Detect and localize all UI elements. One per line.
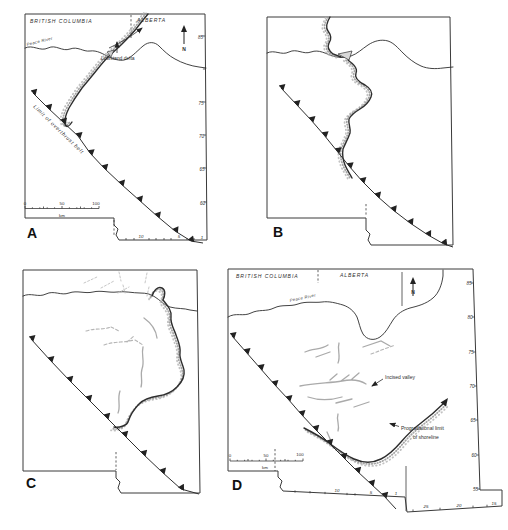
label-incised-valley: Incised valley <box>385 374 416 380</box>
incised-valley-leader-arrow <box>372 379 383 386</box>
delta-symbol-b <box>338 51 352 60</box>
scale-bar-a: 0 50 100 km <box>24 201 100 218</box>
four-panel-paleogeographic-maps: N BRITISH COLUMBIA ALBERTA Peace River L… <box>0 0 508 530</box>
township-tick-label: 80 <box>467 315 473 320</box>
panel-d: N BRITISH COLUMBIA ALBERTA Peace River I… <box>228 269 502 512</box>
scale-hundred: 100 <box>92 201 100 206</box>
range-tick-label: 25 <box>423 504 429 509</box>
north-label-d: N <box>411 289 415 295</box>
north-arrow-icon: N <box>181 25 187 52</box>
label-alberta-a: ALBERTA <box>136 17 166 23</box>
peace-river-line-d <box>228 270 443 339</box>
label-lowstand-delta: Lowstand delta <box>101 55 135 61</box>
township-tick-label: 85 <box>198 35 204 40</box>
panel-letter-c: C <box>26 475 36 491</box>
shoreline-stipple-b <box>325 17 370 178</box>
range-tick-label: 20 <box>456 503 462 508</box>
lowstand-shoreline-a <box>61 13 148 126</box>
range-tick-label: 1 <box>395 491 398 496</box>
label-british-columbia-a: BRITISH COLUMBIA <box>30 18 93 24</box>
prograd-limit-leader-arrow <box>390 424 399 427</box>
incised-valley-channels-d <box>300 341 395 441</box>
thrust-belt-line-b <box>281 88 453 247</box>
township-tick-label: 55 <box>473 487 479 492</box>
township-tick-label: 65 <box>470 418 476 423</box>
peace-river-line-c <box>23 291 197 311</box>
progradational-shoreline-d <box>304 398 448 466</box>
north-label-a: N <box>182 46 186 52</box>
thrust-belt-line-d <box>232 336 396 509</box>
township-tick-label: 65 <box>199 167 205 172</box>
label-limit-of-overthrust-belt: Limit of overthrust belt <box>32 103 85 154</box>
shoreline-line-d <box>304 403 444 462</box>
peace-river-line-b <box>267 40 453 68</box>
panel-letter-d: D <box>232 477 242 493</box>
shoreline-line-c <box>114 287 184 427</box>
scale-hundred: 100 <box>296 452 304 457</box>
shoreline-c <box>111 287 184 430</box>
meridian-lines-d <box>402 272 406 511</box>
scale-unit: km <box>262 465 268 470</box>
panel-a: N BRITISH COLUMBIA ALBERTA Peace River L… <box>24 13 207 243</box>
township-tick-label: 70 <box>199 134 205 139</box>
scale-zero: 0 <box>24 201 27 206</box>
north-arrow-icon-d: N <box>410 277 416 296</box>
label-peace-river-d: Peace River <box>289 292 316 302</box>
shoreline-stipple-c <box>113 289 183 429</box>
township-tick-label: 70 <box>469 384 475 389</box>
township-tick-label: 85 <box>466 281 472 286</box>
shoreline-line-b <box>327 17 372 178</box>
range-tick-label: 5 <box>370 490 373 495</box>
shoreline-stipple-a <box>63 14 146 126</box>
panel-b: B <box>267 17 453 247</box>
range-tick-label: 1 <box>201 235 204 240</box>
label-progradational-limit: Progradational limit <box>401 425 444 431</box>
range-tick-label: 10 <box>139 234 144 239</box>
scale-fifty: 50 <box>60 201 65 206</box>
shoreline-line-a <box>65 14 148 126</box>
scale-fifty: 50 <box>264 453 269 458</box>
panel-letter-b: B <box>273 224 283 240</box>
scale-zero: 0 <box>229 453 232 458</box>
township-tick-label: 75 <box>468 350 474 355</box>
map-outline-d <box>228 269 502 512</box>
township-tick-label: 60 <box>471 453 477 458</box>
panel-c: C <box>23 270 200 494</box>
shoreline-b <box>322 17 371 179</box>
range-tick-label: 15 <box>492 501 497 506</box>
figure-page: N BRITISH COLUMBIA ALBERTA Peace River L… <box>0 0 508 530</box>
label-peace-river-a: Peace River <box>26 36 53 47</box>
thrust-belt-line-a <box>33 93 203 243</box>
label-of-shoreline: of shoreline <box>413 434 439 440</box>
scale-bar-d: 0 50 100 km <box>229 452 304 471</box>
scale-unit: km <box>59 213 65 218</box>
panel-letter-a: A <box>27 225 37 241</box>
map-outline-c <box>23 270 200 493</box>
shoreline-stipple-outer-a <box>61 13 144 125</box>
township-tick-labels-a: 85 75 70 65 60 <box>198 35 206 206</box>
range-tick-label: 10 <box>335 488 340 493</box>
label-british-columbia-d: BRITISH COLUMBIA <box>236 273 299 279</box>
label-alberta-d: ALBERTA <box>339 272 369 278</box>
township-tick-label: 75 <box>198 101 204 106</box>
township-tick-label: 60 <box>200 201 206 206</box>
